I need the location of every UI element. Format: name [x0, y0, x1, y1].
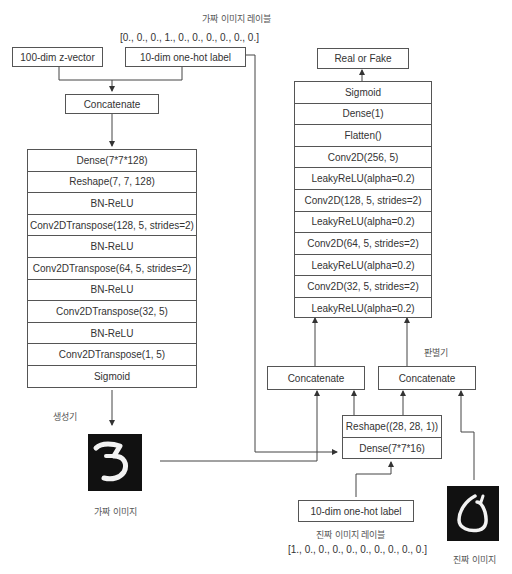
- generator-title: 생성기: [53, 410, 77, 423]
- discriminator-layer: Flatten(): [295, 125, 431, 147]
- discriminator-layer: Sigmoid: [295, 82, 431, 104]
- real-image-digit-6: [447, 486, 499, 541]
- generator-layer: Reshape(7, 7, 128): [28, 172, 196, 194]
- discriminator-layer: LeakyReLU(alpha=0.2): [295, 168, 431, 190]
- generator-layer: Sigmoid: [28, 366, 196, 388]
- discriminator-layer: LeakyReLU(alpha=0.2): [295, 298, 431, 320]
- generator-layer: Dense(7*7*128): [28, 150, 196, 172]
- generator-layer-stack: Dense(7*7*128) Reshape(7, 7, 128) BN-ReL…: [27, 149, 197, 388]
- discriminator-layer: Conv2D(256, 5): [295, 147, 431, 169]
- generator-layer: BN-ReLU: [28, 280, 196, 302]
- discriminator-layer: Conv2D(32, 5, strides=2): [295, 276, 431, 298]
- real-label-vector: [1., 0., 0., 0., 0., 0., 0., 0., 0., 0.]: [288, 544, 427, 555]
- discriminator-layer: LeakyReLU(alpha=0.2): [295, 255, 431, 277]
- generator-layer: BN-ReLU: [28, 193, 196, 215]
- real-label-caption: 진짜 이미지 레이블: [316, 528, 385, 541]
- real-one-hot-label-input: 10-dim one-hot label: [298, 500, 414, 522]
- discriminator-layer: Dense(1): [295, 104, 431, 126]
- fake-label-caption: 가짜 이미지 레이블: [202, 12, 271, 25]
- label-branch-layer: Dense(7*7*16): [343, 438, 441, 460]
- generator-layer: BN-ReLU: [28, 323, 196, 345]
- label-branch-stack: Reshape((28, 28, 1)) Dense(7*7*16): [342, 415, 442, 459]
- discriminator-layer: Conv2D(64, 5, strides=2): [295, 233, 431, 255]
- generator-layer: Conv2DTranspose(32, 5): [28, 301, 196, 323]
- fake-image-caption: 가짜 이미지: [94, 505, 137, 518]
- real-or-fake-output: Real or Fake: [317, 48, 409, 69]
- z-vector-input: 100-dim z-vector: [12, 47, 103, 67]
- fake-one-hot-label-input: 10-dim one-hot label: [125, 47, 246, 67]
- discriminator-layer: LeakyReLU(alpha=0.2): [295, 212, 431, 234]
- real-image-caption: 진짜 이미지: [453, 553, 496, 566]
- generator-layer: BN-ReLU: [28, 236, 196, 258]
- discriminator-layer: Conv2D(128, 5, strides=2): [295, 190, 431, 212]
- label-branch-layer: Reshape((28, 28, 1)): [343, 416, 441, 438]
- discriminator-concatenate-left: Concatenate: [267, 366, 365, 390]
- discriminator-title: 판별기: [424, 346, 448, 359]
- generator-layer: Conv2DTranspose(64, 5, strides=2): [28, 258, 196, 280]
- fake-label-vector: [0., 0., 0., 1., 0., 0., 0., 0., 0., 0.]: [120, 32, 259, 43]
- fake-image-digit-3: [88, 434, 142, 491]
- generator-layer: Conv2DTranspose(1, 5): [28, 344, 196, 366]
- discriminator-concatenate-right: Concatenate: [378, 366, 476, 390]
- generator-concatenate: Concatenate: [65, 94, 159, 114]
- discriminator-layer-stack: Sigmoid Dense(1) Flatten() Conv2D(256, 5…: [294, 81, 432, 318]
- generator-layer: Conv2DTranspose(128, 5, strides=2): [28, 215, 196, 237]
